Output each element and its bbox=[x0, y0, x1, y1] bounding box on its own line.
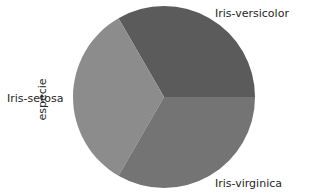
pie-slices bbox=[73, 6, 255, 188]
y-axis-label: especie bbox=[37, 78, 48, 120]
slice-label-virginica: Iris-virginica bbox=[215, 178, 282, 189]
slice-label-versicolor: Iris-versicolor bbox=[215, 8, 289, 19]
